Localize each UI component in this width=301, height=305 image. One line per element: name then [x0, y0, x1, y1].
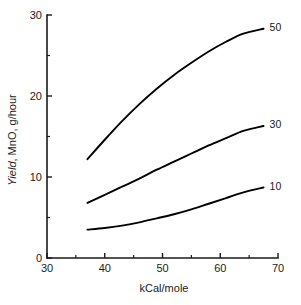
x-axis-tick-labels: 3040506070 — [41, 262, 284, 274]
x-tick-label: 50 — [156, 262, 168, 274]
series-curve-10 — [87, 188, 263, 230]
series-curves — [87, 29, 263, 230]
chart-container: 0102030 3040506070 503010 kCal/mole Yiel… — [0, 0, 301, 305]
series-label-30: 30 — [270, 118, 282, 130]
y-axis-title-emphasis: Yield — [6, 161, 18, 186]
series-end-labels: 503010 — [270, 21, 282, 192]
y-axis-title-rest: , MnO, g/hour — [6, 94, 18, 162]
axes — [47, 15, 278, 258]
y-tick-label: 30 — [30, 9, 42, 21]
x-axis-title: kCal/mole — [140, 282, 189, 294]
y-tick-label: 10 — [30, 171, 42, 183]
x-tick-label: 30 — [41, 262, 53, 274]
x-tick-label: 60 — [214, 262, 226, 274]
line-chart: 0102030 3040506070 503010 kCal/mole Yiel… — [0, 0, 301, 305]
x-tick-label: 40 — [99, 262, 111, 274]
series-curve-50 — [87, 29, 263, 159]
y-axis-title: Yield, MnO, g/hour — [6, 94, 18, 186]
series-label-10: 10 — [270, 180, 282, 192]
y-axis-tick-labels: 0102030 — [30, 9, 42, 264]
x-tick-label: 70 — [272, 262, 284, 274]
series-curve-30 — [87, 126, 263, 203]
series-label-50: 50 — [270, 21, 282, 33]
y-tick-label: 20 — [30, 90, 42, 102]
